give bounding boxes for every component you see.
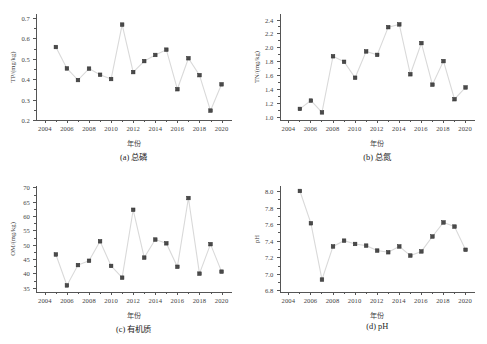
- data-point-marker: [331, 245, 335, 249]
- panel-b: 2004200620082010201220142016201820201.01…: [244, 0, 487, 172]
- series-line: [299, 24, 465, 112]
- data-point-marker: [386, 250, 390, 254]
- data-point-marker: [153, 53, 157, 57]
- data-point-marker: [408, 72, 412, 76]
- data-point-marker: [463, 86, 467, 90]
- data-point-marker: [386, 25, 390, 29]
- plot-area-d: 2004200620082010201220142016201820206.87…: [244, 172, 487, 344]
- series-line: [299, 191, 465, 280]
- data-point-marker: [120, 23, 124, 27]
- data-point-marker: [397, 23, 401, 27]
- plot-area-c: 2004200620082010201220142016201820203540…: [0, 172, 244, 344]
- data-point-marker: [441, 59, 445, 63]
- data-point-marker: [176, 87, 180, 91]
- data-point-marker: [54, 45, 58, 49]
- data-point-marker: [452, 225, 456, 229]
- data-point-marker: [298, 189, 302, 193]
- data-point-marker: [408, 254, 412, 258]
- data-point-marker: [220, 270, 224, 274]
- data-point-marker: [419, 250, 423, 254]
- data-series: [0, 172, 244, 344]
- data-point-marker: [65, 284, 69, 288]
- data-point-marker: [87, 67, 91, 71]
- plot-area-a: 2004200620082010201220142016201820200.20…: [0, 0, 244, 172]
- data-point-marker: [187, 196, 191, 200]
- data-series: [244, 0, 487, 172]
- data-point-marker: [309, 99, 313, 103]
- data-point-marker: [176, 265, 180, 269]
- panel-d: 2004200620082010201220142016201820206.87…: [244, 172, 487, 344]
- data-point-marker: [54, 253, 58, 257]
- data-point-marker: [298, 107, 302, 111]
- data-point-marker: [375, 249, 379, 253]
- data-point-marker: [65, 67, 69, 71]
- data-point-marker: [131, 208, 135, 212]
- series-line: [56, 25, 222, 111]
- data-point-marker: [87, 259, 91, 263]
- data-point-marker: [364, 244, 368, 248]
- data-point-marker: [120, 276, 124, 280]
- data-point-marker: [320, 278, 324, 282]
- data-point-marker: [76, 263, 80, 267]
- data-point-marker: [430, 235, 434, 239]
- data-point-marker: [364, 50, 368, 54]
- data-point-marker: [165, 242, 169, 246]
- data-point-marker: [131, 70, 135, 74]
- panel-a: 2004200620082010201220142016201820200.20…: [0, 0, 244, 172]
- data-point-marker: [331, 54, 335, 58]
- data-point-marker: [397, 245, 401, 249]
- data-point-marker: [353, 76, 357, 80]
- data-point-marker: [198, 272, 202, 276]
- data-point-marker: [142, 59, 146, 63]
- plot-area-b: 2004200620082010201220142016201820201.01…: [244, 0, 487, 172]
- data-point-marker: [109, 77, 113, 81]
- data-point-marker: [165, 48, 169, 52]
- data-point-marker: [342, 60, 346, 64]
- data-point-marker: [452, 97, 456, 101]
- data-point-marker: [153, 238, 157, 242]
- data-point-marker: [430, 83, 434, 87]
- data-point-marker: [220, 83, 224, 87]
- data-point-marker: [109, 264, 113, 268]
- data-point-marker: [441, 221, 445, 225]
- data-point-marker: [375, 53, 379, 57]
- data-series: [244, 172, 487, 344]
- figure-four-panel-timeseries: 2004200620082010201220142016201820200.20…: [0, 0, 487, 344]
- data-point-marker: [309, 221, 313, 225]
- data-point-marker: [320, 111, 324, 115]
- data-point-marker: [353, 242, 357, 246]
- data-point-marker: [342, 239, 346, 243]
- data-point-marker: [209, 242, 213, 246]
- series-line: [56, 198, 222, 285]
- data-point-marker: [98, 73, 102, 77]
- data-point-marker: [142, 256, 146, 260]
- panel-c: 2004200620082010201220142016201820203540…: [0, 172, 244, 344]
- data-point-marker: [198, 73, 202, 77]
- data-point-marker: [76, 78, 80, 82]
- data-point-marker: [209, 109, 213, 113]
- data-point-marker: [187, 56, 191, 60]
- data-series: [0, 0, 244, 172]
- data-point-marker: [419, 41, 423, 45]
- data-point-marker: [463, 248, 467, 252]
- data-point-marker: [98, 239, 102, 243]
